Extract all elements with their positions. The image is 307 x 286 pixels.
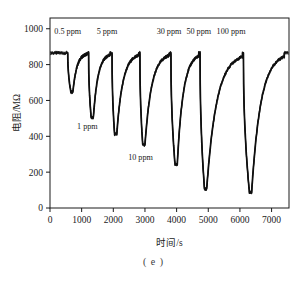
concentration-annotation: 30 ppm <box>157 27 182 36</box>
figure-caption: ( e ) <box>0 256 307 267</box>
x-axis-tick-label: 1000 <box>72 215 91 225</box>
concentration-annotation: 5 ppm <box>97 27 118 36</box>
x-axis-tick-label: 6000 <box>230 215 249 225</box>
concentration-annotation: 1 ppm <box>77 122 98 131</box>
concentration-annotation: 0.5 ppm <box>54 27 81 36</box>
x-axis-title: 时间/s <box>156 237 183 248</box>
resistance-vs-time-chart: 0200400600800100001000200030004000500060… <box>0 0 307 286</box>
y-axis-tick-label: 400 <box>29 132 44 142</box>
y-axis-tick-label: 600 <box>29 96 44 106</box>
concentration-annotation: 10 ppm <box>128 153 153 162</box>
y-axis-tick-label: 800 <box>29 60 44 70</box>
y-axis-tick-label: 0 <box>38 203 43 213</box>
y-axis-tick-label: 1000 <box>24 24 43 34</box>
x-axis-tick-label: 3000 <box>135 215 154 225</box>
y-axis-title: 电阻/MΩ <box>11 94 22 132</box>
x-axis-tick-label: 7000 <box>262 215 281 225</box>
concentration-annotation: 50 ppm <box>186 27 211 36</box>
concentration-annotation: 100 ppm <box>217 27 247 36</box>
y-axis-tick-label: 200 <box>29 168 44 178</box>
x-axis-tick-label: 5000 <box>199 215 218 225</box>
figure-container: 0200400600800100001000200030004000500060… <box>0 0 307 286</box>
x-axis-tick-label: 4000 <box>167 215 186 225</box>
x-axis-tick-label: 0 <box>48 215 53 225</box>
x-axis-tick-label: 2000 <box>104 215 123 225</box>
